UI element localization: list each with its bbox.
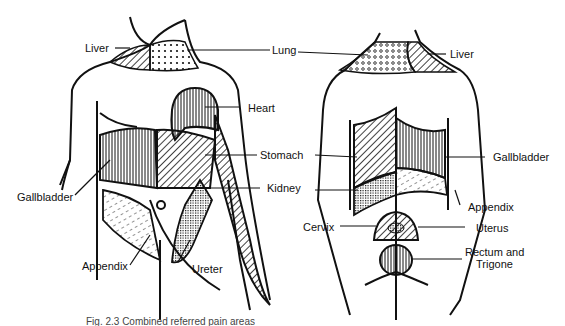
posterior-rectum-zone xyxy=(380,245,412,275)
anterior-liver-zone xyxy=(110,45,150,70)
label-posterior-trigone: Trigone xyxy=(476,258,513,270)
posterior-cervix-zone xyxy=(388,223,404,233)
label-anterior-appendix: Appendix xyxy=(82,260,128,272)
label-anterior-kidney: Kidney xyxy=(267,182,301,194)
label-posterior-rectum: Rectum and xyxy=(465,246,524,258)
label-posterior-gallbladder: Gallbladder xyxy=(493,151,549,163)
posterior-liver-zone xyxy=(407,42,455,72)
anterior-kidney-zone xyxy=(172,180,212,262)
label-anterior-liver: Liver xyxy=(85,42,109,54)
label-posterior-liver: Liver xyxy=(450,48,474,60)
label-anterior-stomach: Stomach xyxy=(260,149,303,161)
posterior-lung-zone xyxy=(340,42,415,74)
label-posterior-appendix: Appendix xyxy=(468,201,514,213)
anterior-appendix-zone xyxy=(103,190,160,260)
label-posterior-cervix: Cervix xyxy=(303,221,334,233)
anterior-gallbladder-zone xyxy=(100,128,157,188)
label-anterior-gallbladder: Gallbladder xyxy=(17,191,73,203)
label-anterior-lung: Lung xyxy=(272,44,296,56)
label-posterior-uterus: Uterus xyxy=(476,222,508,234)
anterior-stomach-zone xyxy=(157,130,215,188)
figure-caption: Fig. 2.3 Combined referred pain areas xyxy=(86,316,255,326)
label-anterior-ureter: Ureter xyxy=(192,263,223,275)
label-anterior-heart: Heart xyxy=(248,102,275,114)
